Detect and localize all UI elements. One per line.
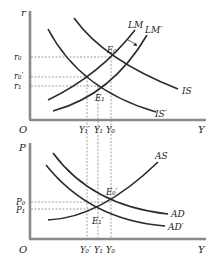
- y0-prime-tick-label: Y₀′: [80, 245, 91, 255]
- is-lm-panel: r O Y r₀ r₀′ r₁ Y₁′ Y₁ Y₀ LM LM′ IS IS′ …: [14, 7, 206, 238]
- is-lm-ad-as-diagram: r O Y r₀ r₀′ r₁ Y₁′ Y₁ Y₀ LM LM′ IS IS′ …: [0, 0, 218, 265]
- y1-prime-tick-label: Y₁′: [79, 125, 90, 135]
- ad-prime-label: AD′: [167, 222, 184, 232]
- is-label: IS: [181, 86, 192, 96]
- y0-tick-label-bottom: Y₀: [106, 245, 116, 255]
- y1-tick-label-bottom: Y₁: [94, 245, 103, 255]
- r0-prime-tick-label: r₀′: [14, 71, 23, 81]
- lm-prime-label: LM′: [144, 25, 162, 35]
- p-axis-label: P: [18, 142, 26, 153]
- ad-as-panel: P O Y P₀ P₁ Y₀′ Y₁ Y₀ AS AD AD′ E₀′ E₁′: [15, 142, 206, 255]
- origin-label-bottom: O: [19, 244, 27, 255]
- e0-label: E₀: [106, 45, 117, 55]
- y-axis-label-bottom: Y: [198, 244, 206, 255]
- e1-label: E₁: [94, 93, 105, 103]
- r0-tick-label: r₀: [14, 52, 22, 62]
- y1-tick-label: Y₁: [94, 125, 103, 135]
- lm-label: LM: [127, 20, 144, 30]
- y0-tick-label: Y₀: [106, 125, 116, 135]
- r1-tick-label: r₁: [14, 81, 21, 91]
- ad-curve: [53, 153, 168, 214]
- y-axis-label-top: Y: [198, 124, 206, 135]
- is-prime-label: IS′: [154, 109, 167, 119]
- e1-prime-label: E₁′: [91, 216, 104, 226]
- lm-curve: [48, 30, 135, 100]
- as-label: AS: [154, 151, 168, 161]
- as-curve: [48, 162, 158, 220]
- r-axis-label: r: [21, 7, 27, 18]
- p1-tick-label: P₁: [15, 205, 25, 215]
- e0-prime-label: E₀′: [105, 187, 118, 197]
- ad-label: AD: [170, 209, 185, 219]
- origin-label-top: O: [19, 124, 27, 135]
